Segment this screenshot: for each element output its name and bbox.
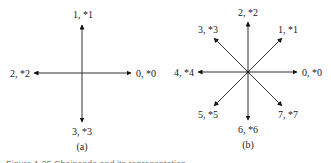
- panel-a-label: (a): [76, 141, 87, 153]
- figure-caption: Figure 1.25 Chaincode and its representa…: [6, 159, 186, 163]
- label-b-7: 7, *7: [278, 109, 298, 120]
- label-b-3: 3, *3: [198, 24, 218, 35]
- label-a-0: 0, *0: [136, 68, 156, 79]
- label-b-2: 2, *2: [238, 7, 258, 18]
- chaincode-figure: 0, *0 1, *1 2, *2 3, *3 (a) 0, *0 1, *1 …: [0, 0, 331, 163]
- label-a-3: 3, *3: [72, 126, 92, 137]
- arrow-downleft-5: [214, 72, 248, 106]
- label-b-6: 6, *6: [238, 124, 258, 135]
- arrow-upleft-3: [214, 38, 248, 72]
- label-b-5: 5, *5: [198, 109, 218, 120]
- center-point: [247, 71, 250, 74]
- arrow-downright-7: [248, 72, 282, 106]
- arrow-upright-1: [248, 38, 282, 72]
- panel-a-4-connectivity: 0, *0 1, *1 2, *2 3, *3 (a): [10, 9, 156, 153]
- label-a-2: 2, *2: [10, 68, 30, 79]
- panel-b-label: (b): [242, 139, 254, 151]
- panel-b-8-connectivity: 0, *0 1, *1 2, *2 3, *3 4, *4 5, *5 6, *…: [174, 7, 322, 151]
- label-b-0: 0, *0: [302, 67, 322, 78]
- label-a-1: 1, *1: [73, 9, 93, 20]
- label-b-1: 1, *1: [278, 24, 298, 35]
- label-b-4: 4, *4: [174, 67, 194, 78]
